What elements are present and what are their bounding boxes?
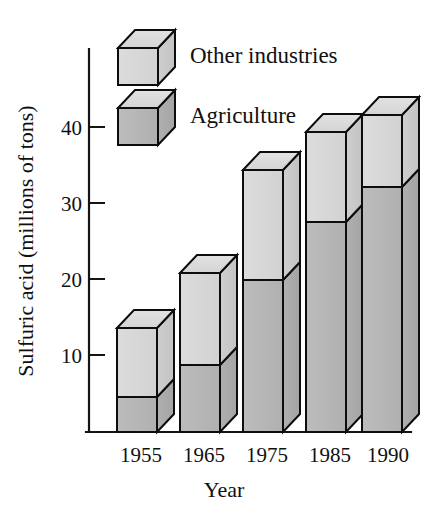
bar-1990-agriculture-front bbox=[362, 187, 402, 432]
bar-1990[interactable] bbox=[362, 97, 419, 432]
sulfuric-acid-stacked-bar-chart: 40 30 20 10 Sulfuric acid (millions of t… bbox=[0, 0, 431, 515]
bar-1975-agriculture-front bbox=[243, 280, 283, 432]
x-tick-label-1985: 1985 bbox=[309, 443, 351, 467]
bar-1955-agriculture-front bbox=[117, 397, 157, 432]
legend-label-other-industries: Other industries bbox=[190, 43, 338, 68]
legend-swatch-agriculture bbox=[118, 90, 175, 145]
bar-1975-other-side bbox=[283, 152, 300, 280]
x-axis-title: Year bbox=[204, 477, 245, 502]
legend-swatch-other-industries bbox=[118, 30, 175, 85]
chart-canvas: 40 30 20 10 Sulfuric acid (millions of t… bbox=[0, 0, 431, 515]
bar-1990-agriculture-side bbox=[402, 169, 419, 432]
legend-label-agriculture: Agriculture bbox=[190, 103, 296, 128]
bar-1975-agriculture-side bbox=[283, 262, 300, 432]
legend-agriculture-front bbox=[118, 108, 158, 145]
bar-1985-agriculture-side bbox=[346, 204, 363, 432]
x-tick-labels: 1955 1965 1975 1985 1990 bbox=[120, 443, 409, 467]
x-tick-label-1990: 1990 bbox=[367, 443, 409, 467]
y-tick-label-10: 10 bbox=[61, 344, 82, 368]
y-axis-title-group: Sulfuric acid (millions of tons) bbox=[13, 105, 38, 376]
bar-1975-other-front bbox=[243, 170, 283, 280]
x-tick-label-1965: 1965 bbox=[183, 443, 225, 467]
bar-1955-other-front bbox=[117, 328, 157, 397]
y-tick-label-20: 20 bbox=[61, 268, 82, 292]
legend-other-front bbox=[118, 48, 158, 85]
y-axis-title: Sulfuric acid (millions of tons) bbox=[13, 105, 38, 376]
bar-1965[interactable] bbox=[180, 255, 237, 432]
bar-1985[interactable] bbox=[306, 114, 363, 432]
bar-1985-other-front bbox=[306, 132, 346, 222]
y-tick-labels: 40 30 20 10 bbox=[61, 116, 82, 368]
bar-1990-other-front bbox=[362, 115, 402, 187]
x-tick-label-1955: 1955 bbox=[120, 443, 162, 467]
x-tick-label-1975: 1975 bbox=[246, 443, 288, 467]
bar-1965-agriculture-front bbox=[180, 365, 220, 432]
bar-1955[interactable] bbox=[117, 310, 174, 432]
bar-1985-agriculture-front bbox=[306, 222, 346, 432]
legend: Other industries Agriculture bbox=[118, 30, 338, 145]
y-tick-label-30: 30 bbox=[61, 192, 82, 216]
bar-1965-other-front bbox=[180, 273, 220, 365]
y-tick-label-40: 40 bbox=[61, 116, 82, 140]
bar-1975[interactable] bbox=[243, 152, 300, 432]
